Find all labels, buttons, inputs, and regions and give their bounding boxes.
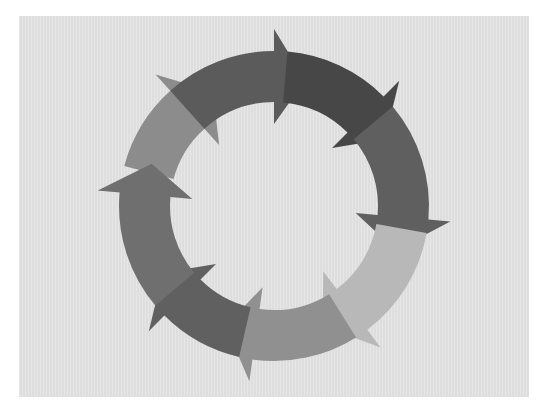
segment-left-arrow-icon [98, 164, 195, 306]
cycle-diagram [0, 0, 546, 413]
